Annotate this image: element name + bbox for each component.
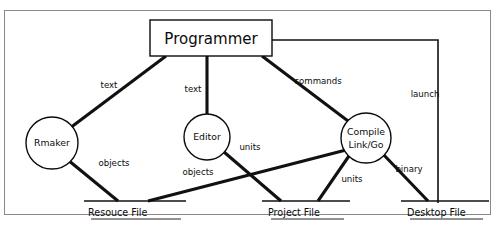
- desktop-file-label: Desktop File: [407, 207, 466, 218]
- node-compile-link-go[interactable]: Compile Link/Go: [341, 113, 391, 163]
- edge-programmer-compile: [262, 56, 352, 124]
- edge-compile-desktop-binary: [381, 152, 428, 201]
- compile-label-line1: Compile: [347, 126, 385, 137]
- compile-label-line2: Link/Go: [348, 139, 383, 150]
- editor-label: Editor: [193, 131, 221, 142]
- node-rmaker[interactable]: Rmaker: [26, 117, 78, 169]
- edge-editor-project-units: [224, 152, 281, 201]
- resource-file-label: Resouce File: [88, 207, 147, 218]
- edge-label-compile-project: units: [341, 174, 363, 184]
- node-editor[interactable]: Editor: [184, 114, 230, 160]
- programmer-label: Programmer: [164, 30, 258, 48]
- node-project-file[interactable]: Project File: [262, 201, 350, 219]
- edge-programmer-rmaker: [70, 56, 166, 128]
- edge-label-editor-resource: objects: [183, 167, 214, 177]
- edge-label-editor-project: units: [239, 142, 261, 152]
- edge-label-programmer-editor: text: [185, 84, 203, 94]
- edge-editor-resource-objects: [148, 150, 346, 201]
- project-file-label: Project File: [268, 207, 320, 218]
- edge-label-programmer-desktop: launch: [411, 89, 440, 99]
- rmaker-label: Rmaker: [34, 137, 70, 148]
- node-programmer[interactable]: Programmer: [150, 20, 272, 56]
- dataflow-diagram: Programmer Rmaker Editor Compile Link/Go…: [0, 0, 500, 241]
- edge-label-programmer-rmaker: text: [101, 80, 119, 90]
- edge-label-rmaker-resource: objects: [99, 158, 130, 168]
- diagram-canvas: Programmer Rmaker Editor Compile Link/Go…: [0, 0, 500, 241]
- edge-label-programmer-compile: commands: [294, 76, 342, 86]
- edge-label-compile-desktop: binary: [395, 164, 422, 174]
- node-resource-file[interactable]: Resouce File: [84, 201, 186, 219]
- node-desktop-file[interactable]: Desktop File: [401, 201, 489, 219]
